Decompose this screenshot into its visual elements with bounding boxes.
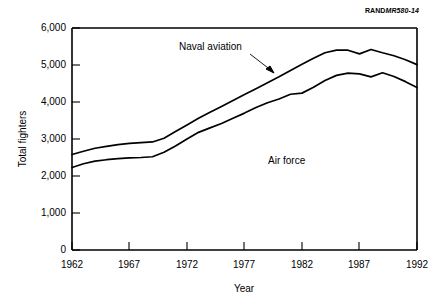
annotation-naval-aviation: Naval aviation	[179, 41, 274, 73]
x-tick-label-1962: 1962	[61, 259, 84, 270]
y-axis-tick-labels: 6,000 5,000 4,000 3,000 2,000 1,000 0	[41, 22, 66, 255]
x-axis-ticks	[72, 242, 417, 250]
series-line-air-force	[72, 73, 417, 168]
x-tick-label-1982: 1982	[291, 259, 314, 270]
y-tick-label-2000: 2,000	[41, 170, 66, 181]
series-line-naval-aviation	[72, 49, 417, 154]
x-tick-label-1967: 1967	[118, 259, 141, 270]
y-tick-label-0: 0	[60, 244, 66, 255]
data-curves	[72, 49, 417, 167]
y-tick-label-4000: 4,000	[41, 96, 66, 107]
y-tick-label-5000: 5,000	[41, 59, 66, 70]
x-tick-label-1972: 1972	[176, 259, 199, 270]
chart-figure: 6,000 5,000 4,000 3,000 2,000 1,000 0 19…	[0, 0, 441, 302]
plot-frame	[72, 28, 417, 250]
x-axis-title: Year	[234, 283, 255, 294]
y-axis-ticks	[72, 28, 80, 250]
x-tick-label-1977: 1977	[233, 259, 256, 270]
y-axis-title: Total fighters	[17, 111, 28, 168]
y-tick-label-3000: 3,000	[41, 133, 66, 144]
y-tick-label-1000: 1,000	[41, 207, 66, 218]
x-tick-label-1987: 1987	[348, 259, 371, 270]
series-label-naval-aviation: Naval aviation	[179, 41, 242, 52]
x-tick-label-1992: 1992	[406, 259, 429, 270]
x-axis-tick-labels: 1962 1967 1972 1977 1982 1987 1992	[61, 259, 429, 270]
series-label-air-force: Air force	[268, 155, 306, 166]
y-tick-label-6000: 6,000	[41, 22, 66, 33]
